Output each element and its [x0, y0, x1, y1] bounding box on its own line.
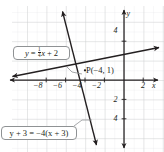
x-axis-label: x: [152, 82, 156, 90]
callout1-constant: 2: [54, 49, 58, 58]
y-tick-label--4: 4: [114, 115, 118, 123]
x-tick-label--2: −2: [92, 82, 101, 90]
y-axis-label: y: [127, 10, 131, 18]
coordinate-plane-figure: −8 −6 −4 −2 2 x 4 2 4 y P(−4, 1) y=14x+2…: [0, 0, 164, 152]
callout1-fraction: 14: [38, 47, 41, 59]
callout-point-slope-equation: y + 3 = −4(x + 3): [1, 126, 77, 140]
x-tick-label--4: −4: [72, 82, 81, 90]
callout1-frac-denominator: 4: [38, 52, 41, 59]
callout-slope-intercept-equation: y=14x+2: [13, 46, 70, 60]
callout1-plus: +: [47, 49, 52, 58]
callout1-lhs: y: [25, 49, 29, 58]
y-tick-label--2: 2: [114, 96, 118, 104]
callout1-equals: =: [31, 49, 36, 58]
point-label-P: P(−4, 1): [86, 66, 114, 75]
x-tick-label--8: −8: [33, 82, 42, 90]
y-tick-label-4: 4: [114, 27, 118, 35]
callout1-variable: x: [41, 49, 45, 58]
x-tick-label--6: −6: [53, 82, 62, 90]
x-tick-label-2: 2: [141, 82, 145, 90]
